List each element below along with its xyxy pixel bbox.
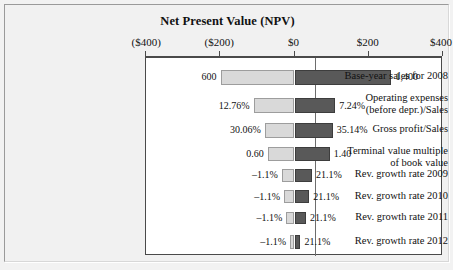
category-label: Gross profit/Sales: [312, 123, 448, 135]
bar-value-low: 30.06%: [230, 125, 261, 135]
category-label-line: Operating expenses: [312, 92, 448, 104]
chart-title: Net Present Value (NPV): [5, 14, 450, 29]
bar-value-low: –1.1%: [254, 192, 280, 202]
bar-high-side: [295, 235, 301, 249]
category-label-line: of book value: [312, 157, 448, 169]
category-label: Rev. growth rate 2012: [312, 235, 448, 247]
category-label: Rev. growth rate 2010: [312, 190, 448, 202]
category-label: Operating expenses(before depr.)/Sales: [312, 92, 448, 115]
bar-low-side: [265, 123, 295, 138]
category-label-line: Rev. growth rate 2011: [312, 211, 448, 223]
category-label-line: (before depr.)/Sales: [312, 104, 448, 116]
bar-value-low: –1.1%: [256, 213, 282, 223]
bar-value-low: 0.60: [246, 149, 264, 159]
x-axis-tick-label: $0: [288, 36, 299, 48]
category-label-line: Rev. growth rate 2012: [312, 235, 448, 247]
bar-low-side: [254, 98, 295, 113]
bar-value-low: 12.76%: [219, 101, 250, 111]
category-label: Terminal value multipleof book value: [312, 145, 448, 168]
x-axis-tick-label: $200: [357, 36, 379, 48]
bar-value-low: 600: [202, 72, 217, 82]
bar-high-side: [295, 212, 307, 224]
category-label-line: Rev. growth rate 2010: [312, 190, 448, 202]
chart-frame: Net Present Value (NPV) ($400)($200)$0$2…: [4, 4, 449, 262]
bar-high-side: [295, 190, 310, 203]
bar-low-side: [221, 70, 295, 85]
x-axis-tick-label: ($200): [205, 36, 234, 48]
category-label: Base-year sales for 2008: [312, 70, 448, 82]
category-label-line: Gross profit/Sales: [312, 123, 448, 135]
x-axis-tick-label: ($400): [132, 36, 161, 48]
bar-high-side: [295, 169, 312, 182]
tornado-chart-figure: Net Present Value (NPV) ($400)($200)$0$2…: [0, 0, 453, 270]
category-label-line: Rev. growth rate 2009: [312, 168, 448, 180]
bar-low-side: [268, 147, 295, 161]
bar-value-low: –1.1%: [260, 237, 286, 247]
category-label-line: Base-year sales for 2008: [312, 70, 448, 82]
bar-low-side: [286, 212, 294, 224]
x-axis-tick-label: $400: [430, 36, 452, 48]
category-label: Rev. growth rate 2009: [312, 168, 448, 180]
bar-value-low: –1.1%: [252, 170, 278, 180]
x-axis-tick: [442, 51, 443, 56]
category-label-line: Terminal value multiple: [312, 145, 448, 157]
bar-low-side: [284, 190, 294, 203]
category-label: Rev. growth rate 2011: [312, 211, 448, 223]
bar-low-side: [282, 169, 295, 182]
